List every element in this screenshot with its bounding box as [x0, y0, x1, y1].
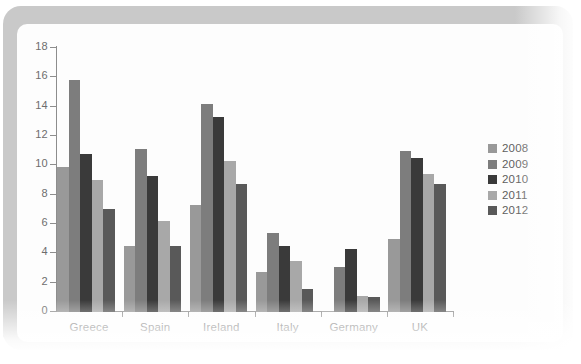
legend-swatch-icon	[488, 191, 497, 200]
bar-greece-2008	[57, 167, 69, 312]
bar-italy-2010	[279, 246, 291, 312]
y-axis-tick-label: 14	[18, 100, 48, 111]
legend-swatch-icon	[488, 160, 497, 169]
bar-group	[124, 48, 182, 312]
bar-spain-2012	[170, 246, 182, 312]
y-axis-tick-label: 18	[18, 41, 48, 52]
x-axis-tick	[453, 311, 454, 317]
bar-greece-2009	[69, 80, 81, 312]
legend-item-2010[interactable]: 2010	[488, 172, 550, 188]
bar-ireland-2008	[190, 205, 202, 312]
bar-group	[57, 48, 115, 312]
y-axis-tick-label: 0	[18, 305, 48, 316]
bar-greece-2010	[80, 154, 92, 312]
plot-area	[56, 40, 451, 312]
bar-group	[256, 48, 314, 312]
x-axis-tick	[321, 311, 322, 317]
x-axis-label-spain: Spain	[122, 322, 188, 334]
y-axis-tick-labels: 024681012141618	[12, 0, 48, 364]
x-axis-label-italy: Italy	[255, 322, 321, 334]
bar-spain-2009	[135, 149, 147, 312]
bar-uk-2010	[411, 158, 423, 312]
bar-ireland-2011	[224, 161, 236, 312]
legend-swatch-icon	[488, 144, 497, 153]
legend-item-2012[interactable]: 2012	[488, 203, 550, 219]
bar-uk-2012	[434, 184, 446, 312]
x-axis-label-uk: UK	[387, 322, 453, 334]
legend-item-2008[interactable]: 2008	[488, 141, 550, 157]
legend-label: 2008	[502, 143, 528, 155]
bar-uk-2008	[388, 239, 400, 312]
x-axis-label-greece: Greece	[56, 322, 122, 334]
bar-germany-2009	[334, 267, 346, 312]
bar-germany-2008	[322, 311, 334, 312]
legend-item-2009[interactable]: 2009	[488, 157, 550, 173]
bar-uk-2009	[400, 151, 412, 312]
bar-germany-2010	[345, 249, 357, 312]
x-axis-label-ireland: Ireland	[188, 322, 254, 334]
bar-italy-2011	[290, 261, 302, 312]
figure-frame: 024681012141618 GreeceSpainIrelandItalyG…	[0, 0, 581, 364]
y-axis-tick-label: 2	[18, 276, 48, 287]
bar-spain-2008	[124, 246, 136, 312]
legend-label: 2012	[502, 205, 528, 217]
bar-italy-2008	[256, 272, 268, 312]
bar-italy-2009	[267, 233, 279, 312]
bar-greece-2011	[92, 180, 104, 312]
x-axis-tick	[387, 311, 388, 317]
x-axis-label-germany: Germany	[321, 322, 387, 334]
bar-ireland-2012	[236, 184, 248, 312]
y-axis-tick-label: 10	[18, 158, 48, 169]
bar-group	[322, 48, 380, 312]
bar-italy-2012	[302, 289, 314, 312]
legend-label: 2010	[502, 174, 528, 186]
y-axis-tick-label: 12	[18, 129, 48, 140]
bar-spain-2010	[147, 176, 159, 312]
bar-group	[190, 48, 248, 312]
bar-greece-2012	[103, 209, 115, 312]
legend-label: 2009	[502, 159, 528, 171]
x-axis-tick	[188, 311, 189, 317]
legend-swatch-icon	[488, 175, 497, 184]
x-axis-tick	[255, 311, 256, 317]
legend-swatch-icon	[488, 206, 497, 215]
bar-ireland-2009	[201, 104, 213, 312]
x-axis-tick	[122, 311, 123, 317]
legend-label: 2011	[502, 190, 528, 202]
chart-legend: 20082009201020112012	[488, 141, 550, 219]
bar-spain-2011	[158, 221, 170, 312]
legend-item-2011[interactable]: 2011	[488, 188, 550, 204]
bar-germany-2012	[368, 297, 380, 312]
y-axis-tick-label: 4	[18, 246, 48, 257]
y-axis-tick-label: 16	[18, 70, 48, 81]
bar-ireland-2010	[213, 117, 225, 312]
y-axis-tick-label: 8	[18, 188, 48, 199]
bar-uk-2011	[423, 174, 435, 312]
bar-group	[388, 48, 446, 312]
bar-germany-2011	[357, 296, 369, 312]
y-axis-tick-label: 6	[18, 217, 48, 228]
